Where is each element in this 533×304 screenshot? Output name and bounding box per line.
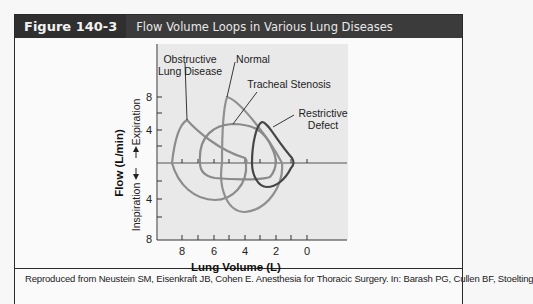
expiration-label: Expiration: [130, 99, 142, 146]
x-tick-8: 8: [179, 245, 185, 257]
restrictive-defect-loop: [252, 122, 294, 187]
normal-leader: [227, 62, 235, 97]
y-tick-4-insp: 4: [146, 193, 152, 205]
inspiration-arrow-icon: [133, 168, 139, 180]
x-tick-0: 0: [304, 245, 310, 257]
y-tick-4-exp: 4: [146, 124, 152, 136]
inspiration-label: Inspiration: [130, 183, 142, 232]
obstructive-label-1: Obstructive: [163, 53, 216, 65]
normal-label: Normal: [236, 53, 270, 65]
x-tick-4: 4: [242, 245, 248, 257]
tracheal-label: Tracheal Stenosis: [247, 78, 331, 90]
restrictive-label-2: Defect: [308, 119, 338, 131]
x-axis-title: Lung Volume (L): [191, 261, 281, 273]
y-tick-8-insp: 8: [146, 233, 152, 245]
tracheal-stenosis-loop: [200, 124, 276, 179]
y-ticks: [157, 97, 162, 217]
y-tick-8-exp: 8: [146, 91, 152, 103]
x-tick-2: 2: [273, 245, 279, 257]
restrictive-label-1: Restrictive: [298, 107, 347, 119]
x-tick-6: 6: [211, 245, 217, 257]
y-axis-title: Flow (L/min): [113, 129, 125, 197]
expiration-arrow-icon: [133, 146, 139, 158]
restrictive-leader: [273, 115, 294, 127]
obstructive-label-2: Lung Disease: [158, 65, 222, 77]
